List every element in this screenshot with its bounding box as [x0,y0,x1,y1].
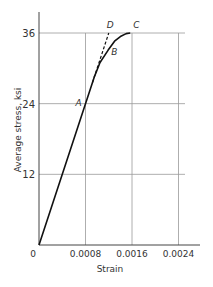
point-label-d: D [107,20,114,30]
y-axis-label: Average stress, ksi [13,88,23,173]
x-tick-label: 0 [30,249,36,259]
y-tick-label: 12 [22,169,35,180]
x-axis-label: Strain [97,264,124,274]
point-label-b: B [111,47,117,57]
x-tick-label: 0.0016 [116,249,148,259]
y-tick-label: 36 [22,28,35,39]
x-tick-label: 0.0008 [70,249,102,259]
point-label-c: C [133,20,140,30]
y-tick-label: 24 [22,99,35,110]
point-label-a: A [75,98,82,108]
stress-strain-curve [39,33,130,245]
stress-strain-chart: 12243600.00080.00160.0024StrainAverage s… [0,0,213,287]
linear-extension-dashed [92,33,108,82]
x-tick-label: 0.0024 [163,249,195,259]
